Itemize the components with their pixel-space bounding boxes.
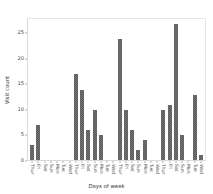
x-tick-label: Wed — [199, 164, 204, 174]
bar — [80, 90, 84, 161]
bar — [99, 135, 103, 160]
x-tick-mark — [194, 161, 195, 163]
y-tick-label: 5 — [21, 133, 24, 138]
x-tick-label: Sun — [49, 164, 54, 173]
x-tick-label: Sun — [136, 164, 141, 173]
y-tick-label: 10 — [17, 107, 24, 112]
x-tick-mark — [63, 161, 64, 163]
x-tick-label: Wed — [67, 164, 72, 174]
x-tick-mark — [188, 161, 189, 163]
x-tick-label: Thur — [161, 164, 166, 175]
x-tick-label: Wed — [155, 164, 160, 174]
bar-slot — [198, 19, 204, 160]
x-tick-mark — [138, 161, 139, 163]
x-tick-label: Wed — [111, 164, 116, 174]
x-tick-mark — [113, 161, 114, 163]
bar — [143, 140, 147, 160]
x-tick-mark — [150, 161, 151, 163]
x-tick-mark — [82, 161, 83, 163]
x-tick-label: Tue — [192, 164, 197, 172]
bars-container — [28, 19, 205, 160]
x-tick-label: Tue — [105, 164, 110, 172]
x-tick-label: Mon — [99, 164, 104, 174]
bar — [174, 24, 178, 160]
x-tick-mark — [88, 161, 89, 163]
x-tick-mark — [144, 161, 145, 163]
x-tick-label: Sat — [130, 164, 135, 172]
x-tick-mark — [107, 161, 108, 163]
x-tick-mark — [163, 161, 164, 163]
x-tick-mark — [132, 161, 133, 163]
bar — [130, 130, 134, 160]
bar — [124, 110, 128, 160]
x-tick-mark — [119, 161, 120, 163]
bar — [161, 110, 165, 160]
y-tick-label: 25 — [17, 31, 24, 36]
x-tick-label: Sat — [86, 164, 91, 172]
x-tick-mark — [38, 161, 39, 163]
bar — [36, 125, 40, 160]
bar — [136, 150, 140, 160]
bar — [168, 105, 172, 160]
y-axis-ticks: 0510152025 — [0, 18, 27, 161]
x-tick-mark — [69, 161, 70, 163]
x-tick-mark — [100, 161, 101, 163]
x-tick-mark — [169, 161, 170, 163]
bar — [193, 95, 197, 160]
y-tick-label: 0 — [21, 158, 24, 163]
x-tick-mark — [200, 161, 201, 163]
bar — [30, 145, 34, 160]
x-tick-mark — [157, 161, 158, 163]
bar — [118, 39, 122, 160]
bar — [199, 155, 203, 160]
x-tick-label: Fri — [124, 164, 129, 169]
x-tick-label: Fri — [80, 164, 85, 169]
x-tick-label: Sat — [42, 164, 47, 172]
x-tick-label: Fri — [36, 164, 41, 169]
x-tick-label: Thur — [117, 164, 122, 175]
x-tick-label: Fri — [167, 164, 172, 169]
x-tick-label: Mon — [55, 164, 60, 174]
y-tick-label: 15 — [17, 82, 24, 87]
x-tick-label: Sat — [174, 164, 179, 172]
x-tick-mark — [32, 161, 33, 163]
x-tick-mark — [175, 161, 176, 163]
x-tick-label: Thur — [30, 164, 35, 175]
x-tick-label: Mon — [186, 164, 191, 174]
x-tick-mark — [44, 161, 45, 163]
x-tick-label: Sun — [92, 164, 97, 173]
x-tick-label: Mon — [142, 164, 147, 174]
x-tick-label: Thur — [74, 164, 79, 175]
y-tick-label: 20 — [17, 56, 24, 61]
x-axis-ticks: ThurFriSatSunMonTueWedThurFriSatSunMonTu… — [28, 161, 205, 185]
x-tick-mark — [125, 161, 126, 163]
x-tick-mark — [94, 161, 95, 163]
x-tick-mark — [75, 161, 76, 163]
x-axis-label: Days of week — [0, 184, 213, 189]
x-tick-mark — [57, 161, 58, 163]
bar — [86, 130, 90, 160]
x-tick-mark — [182, 161, 183, 163]
x-tick-mark — [50, 161, 51, 163]
x-tick-label: Tue — [61, 164, 66, 172]
bar — [93, 110, 97, 160]
bar — [180, 135, 184, 160]
bar — [74, 74, 78, 160]
bar-chart-figure: Visit count 0510152025 ThurFriSatSunMonT… — [0, 0, 213, 194]
x-tick-label: Tue — [149, 164, 154, 172]
x-tick-label: Sun — [180, 164, 185, 173]
x-tick-slot: Wed — [198, 161, 204, 185]
